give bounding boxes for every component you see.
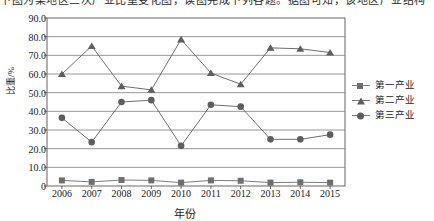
data-point-marker xyxy=(178,143,185,150)
data-point-marker xyxy=(148,97,155,104)
legend-label: 第三产业 xyxy=(375,108,415,123)
data-point-marker xyxy=(59,115,66,122)
legend-item-secondary-industry[interactable]: 第二产业 xyxy=(352,93,415,108)
data-point-marker xyxy=(118,99,125,106)
legend-item-tertiary-industry[interactable]: 第三产业 xyxy=(352,108,415,123)
legend-item-primary-industry[interactable]: 第一产业 xyxy=(352,78,415,93)
data-point-marker xyxy=(268,180,274,186)
chart-legend: 第一产业 第二产业 第三产业 xyxy=(352,78,415,123)
data-point-marker xyxy=(208,102,215,109)
legend-label: 第一产业 xyxy=(375,78,415,93)
data-point-marker xyxy=(297,179,303,185)
data-point-marker xyxy=(237,103,244,110)
circle-marker-icon xyxy=(352,115,370,116)
data-point-marker xyxy=(89,179,95,185)
legend-label: 第二产业 xyxy=(375,93,415,108)
data-point-marker xyxy=(59,177,65,183)
triangle-marker-icon xyxy=(352,100,370,101)
data-point-marker xyxy=(297,136,304,143)
data-point-marker xyxy=(208,177,214,183)
data-point-marker xyxy=(327,131,334,138)
square-marker-icon xyxy=(352,85,370,86)
data-point-marker xyxy=(327,180,333,186)
data-point-marker xyxy=(148,177,154,183)
data-point-marker xyxy=(119,177,125,183)
data-point-marker xyxy=(88,139,95,146)
data-point-marker xyxy=(267,136,274,143)
data-point-marker xyxy=(238,178,244,184)
data-point-marker xyxy=(178,180,184,186)
